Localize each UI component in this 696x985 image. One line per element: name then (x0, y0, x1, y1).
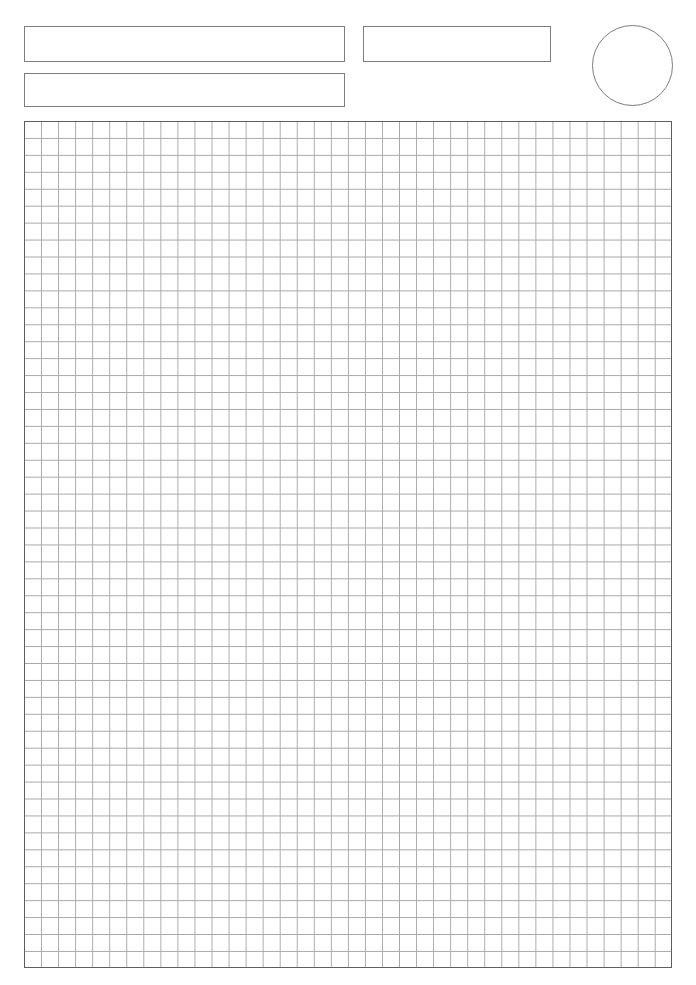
subtitle-input[interactable] (24, 73, 345, 107)
worksheet-page (0, 0, 696, 985)
date-input[interactable] (363, 26, 551, 62)
score-badge[interactable] (592, 25, 673, 106)
graph-paper-grid[interactable] (24, 121, 672, 968)
title-input[interactable] (24, 26, 345, 62)
